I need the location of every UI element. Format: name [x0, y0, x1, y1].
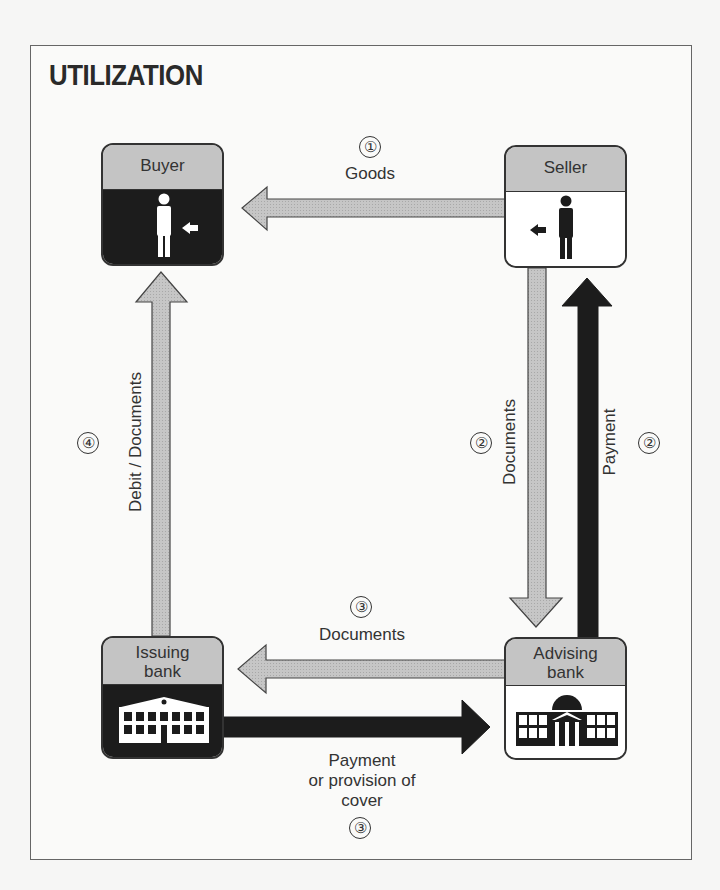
- person-icon: [103, 190, 224, 266]
- step-4-badge: ④: [77, 432, 99, 454]
- person-icon: [506, 192, 627, 268]
- issuing-bank-node: Issuing bank: [101, 636, 224, 759]
- goods-arrow: [242, 187, 505, 230]
- debit-documents-label: Debit / Documents: [126, 362, 146, 522]
- advising-bank-label-line2: bank: [506, 663, 625, 682]
- advising-bank-node: Advising bank: [504, 637, 627, 760]
- buyer-label: Buyer: [103, 145, 222, 190]
- bank-building-domed-icon: [506, 686, 627, 760]
- seller-node: Seller: [504, 145, 627, 268]
- step-2-documents-badge: ②: [470, 432, 492, 454]
- advising-bank-label-line1: Advising: [506, 644, 625, 663]
- issuing-bank-label-line1: Issuing: [103, 643, 222, 662]
- documents-horizontal-label: Documents: [310, 625, 414, 645]
- payment-cover-label-line3: cover: [300, 791, 424, 811]
- payment-cover-label-line1: Payment: [300, 751, 424, 771]
- documents-left-arrow: [238, 645, 505, 693]
- payment-cover-label-line2: or provision of: [300, 771, 424, 791]
- step-3-payment-badge: ③: [349, 817, 371, 839]
- payment-cover-arrow: [222, 700, 490, 754]
- goods-label: Goods: [335, 164, 405, 184]
- buyer-node: Buyer: [101, 143, 224, 266]
- seller-label: Seller: [506, 147, 625, 192]
- bank-building-icon: [103, 685, 224, 759]
- step-2-payment-badge: ②: [638, 432, 660, 454]
- issuing-bank-label-line2: bank: [103, 662, 222, 681]
- step-1-badge: ①: [359, 136, 381, 158]
- payment-vertical-label: Payment: [600, 402, 620, 482]
- step-3-documents-badge: ③: [350, 596, 372, 618]
- documents-vertical-label: Documents: [500, 392, 520, 492]
